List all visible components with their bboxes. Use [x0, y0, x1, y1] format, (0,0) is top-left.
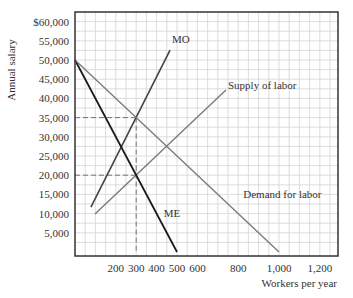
series-supply-of-labor	[95, 90, 226, 214]
x-tick-label: 500	[169, 262, 186, 274]
series-label: Supply of labor	[228, 79, 297, 91]
y-tick-label: 40,000	[39, 92, 70, 104]
y-tick-label: 45,000	[39, 73, 70, 85]
y-tick-label: 10,000	[39, 208, 70, 220]
x-tick-label: 800	[230, 262, 247, 274]
y-tick-label: 20,000	[39, 169, 70, 181]
x-tick-label: 1,200	[307, 262, 332, 274]
series-mo	[91, 50, 170, 207]
y-tick-label: 30,000	[39, 131, 70, 143]
y-tick-label: $60,000	[33, 16, 69, 28]
y-tick-label: 35,000	[39, 112, 70, 124]
series-label: ME	[164, 207, 181, 219]
labor-market-chart: 5,00010,00015,00020,00025,00030,00035,00…	[0, 0, 353, 298]
x-axis-label: Workers per year	[262, 277, 338, 289]
series-label: MO	[172, 33, 190, 45]
x-tick-label: 600	[189, 262, 206, 274]
x-tick-label: 1,000	[267, 262, 292, 274]
x-tick-label: 300	[128, 262, 145, 274]
series-label: Demand for labor	[243, 188, 322, 200]
y-axis-label: Annual salary	[5, 39, 17, 101]
x-tick-label: 200	[108, 262, 125, 274]
y-tick-label: 15,000	[39, 188, 70, 200]
y-tick-label: 55,000	[39, 35, 70, 47]
y-tick-label: 5,000	[44, 227, 69, 239]
y-axis-ticks: 5,00010,00015,00020,00025,00030,00035,00…	[33, 16, 69, 239]
x-tick-label: 400	[148, 262, 165, 274]
x-axis-ticks: 2003004005006008001,0001,200	[108, 262, 333, 274]
y-tick-label: 50,000	[39, 54, 70, 66]
y-tick-label: 25,000	[39, 150, 70, 162]
